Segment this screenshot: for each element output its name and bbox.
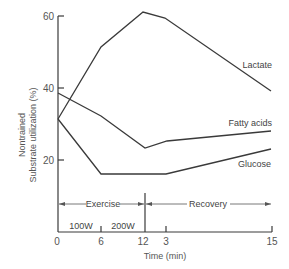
y-tick-label-60: 60 [43, 11, 55, 22]
x-tick-label-recovery-3: 3 [163, 236, 169, 247]
y-tick-label-20: 20 [43, 155, 55, 166]
x-tick-label-12: 12 [137, 236, 149, 247]
exercise-phase-arrow: Exercise [59, 199, 144, 209]
x-axis-title: Time (min) [144, 251, 187, 261]
workload-100w-label: 100W [69, 221, 93, 231]
lactate-label: Lactate [242, 60, 272, 70]
exercise-label: Exercise [86, 199, 121, 209]
workload-200w-label: 200W [111, 221, 135, 231]
glucose-label: Glucose [238, 159, 271, 169]
x-tick-label-recovery-15: 15 [266, 236, 278, 247]
lactate-line [58, 12, 271, 119]
x-tick-label-6: 6 [98, 236, 104, 247]
recovery-phase-arrow: Recovery [146, 199, 271, 209]
x-tick-label-0: 0 [54, 236, 60, 247]
y-tick-label-40: 40 [43, 83, 55, 94]
y-axis-title-line1: Nontrained [17, 113, 27, 157]
substrate-utilization-chart: 60 40 20 Nontrained Substrate utilizatio… [0, 0, 289, 269]
y-axis-title-line2: Substrate utilization (%) [28, 87, 38, 182]
recovery-label: Recovery [189, 199, 228, 209]
fatty-acids-label: Fatty acids [228, 118, 272, 128]
